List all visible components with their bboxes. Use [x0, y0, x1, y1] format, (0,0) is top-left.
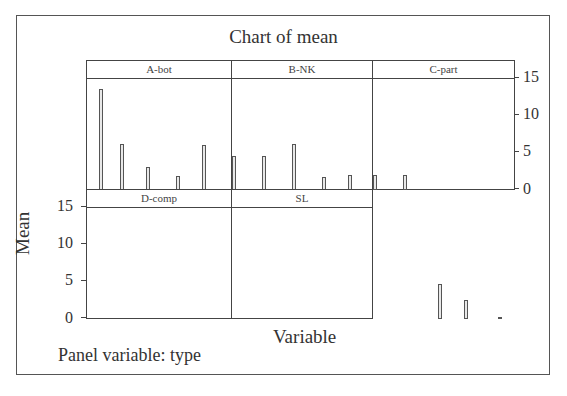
y-tick-label: 0 [65, 310, 73, 326]
y-tick-label: 0 [523, 181, 531, 197]
panel-label: A-bot [87, 61, 231, 79]
bar [498, 317, 502, 319]
y-tick-label: 15 [523, 69, 539, 85]
bar [373, 175, 377, 190]
panel-variable-note: Panel variable: type [58, 345, 201, 366]
y-tick-label: 5 [523, 143, 531, 159]
bar [99, 89, 103, 190]
bar [120, 144, 124, 190]
bar [146, 167, 150, 190]
y-axis-label: Mean [12, 212, 34, 255]
bar [438, 284, 442, 319]
bar [464, 300, 468, 319]
y-tick-label: 10 [523, 106, 539, 122]
y-tick-label: 10 [57, 235, 73, 251]
bar [262, 156, 266, 190]
panel-sl: SL [231, 189, 373, 319]
panel-label: D-comp [87, 190, 231, 208]
y-tick-label: 5 [65, 272, 73, 288]
panel-a-bot: A-bot [86, 60, 232, 190]
panel-label: C-part [373, 61, 514, 79]
chart-title: Chart of mean [0, 26, 567, 48]
panel-d-comp: D-comp [86, 189, 232, 319]
panel-b-nk: B-NK [231, 60, 373, 190]
bar [202, 145, 206, 190]
y-tick-label: 15 [57, 198, 73, 214]
panel-c-part: C-part [372, 60, 515, 190]
panel-label: SL [232, 190, 372, 208]
bar [232, 156, 236, 190]
bar [292, 144, 296, 190]
x-axis-label: Variable [273, 326, 336, 348]
bar [403, 175, 407, 190]
bar [348, 175, 352, 190]
bar [176, 176, 180, 190]
panel-label: B-NK [232, 61, 372, 79]
